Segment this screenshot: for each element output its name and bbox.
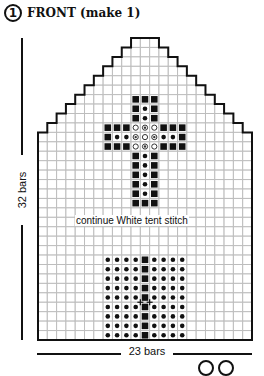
circle-mark-icon xyxy=(198,360,214,376)
stitch-chart xyxy=(0,0,264,350)
circle-mark-icon xyxy=(218,360,234,376)
width-dimension-line-right xyxy=(173,353,252,355)
page-marks xyxy=(198,360,234,376)
width-dimension-line-left xyxy=(37,353,121,355)
stitch-note: continue White tent stitch xyxy=(75,215,189,226)
width-dimension-label: 23 bars xyxy=(122,345,172,357)
